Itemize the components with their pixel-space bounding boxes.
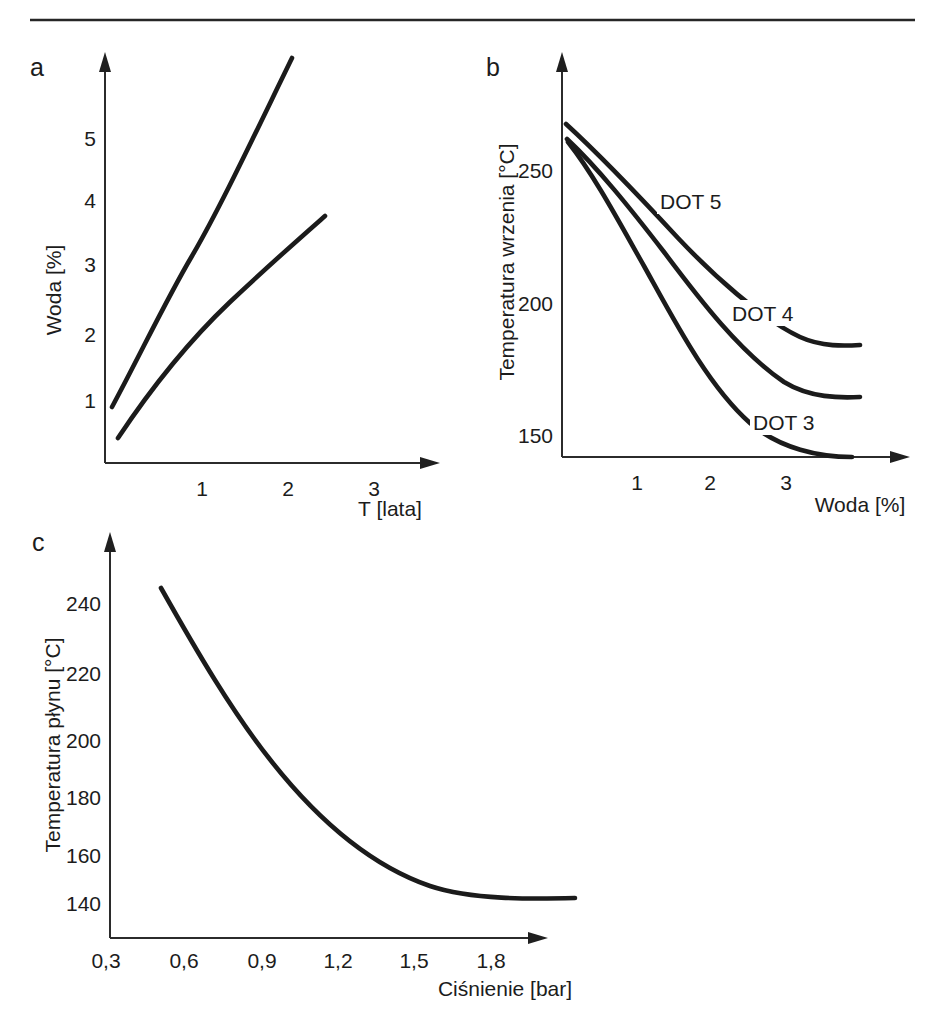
panel-a-ytick-2: 2 — [84, 323, 96, 346]
panel-b-letter: b — [486, 53, 500, 81]
panel-c-curve — [161, 588, 575, 899]
panel-c-ytick-160: 160 — [66, 844, 101, 867]
panel-c-x-axis-arrow — [528, 932, 548, 944]
panel-b-y-axis-arrow — [556, 52, 568, 72]
panel-a-ytick-4: 4 — [84, 189, 96, 212]
panel-b-ytick-150: 150 — [518, 424, 553, 447]
panel-b-ytick-200: 200 — [518, 292, 553, 315]
panel-c-y-axis-arrow — [104, 532, 116, 552]
panel-b-series-label-dot3: DOT 3 — [753, 411, 814, 434]
panel-b-series-label-dot4: DOT 4 — [732, 302, 794, 325]
figure-container: a 5 4 3 2 1 1 2 3 Woda [%] T [lata] — [0, 0, 937, 1032]
figure-canvas: a 5 4 3 2 1 1 2 3 Woda [%] T [lata] — [0, 0, 937, 1032]
panel-a: a 5 4 3 2 1 1 2 3 Woda [%] T [lata] — [30, 52, 440, 520]
panel-a-x-axis-arrow — [420, 457, 440, 469]
panel-a-y-axis-arrow — [99, 52, 111, 72]
panel-a-ytick-5: 5 — [84, 127, 96, 150]
panel-c-xtick-09: 0,9 — [247, 949, 276, 972]
panel-c-xtick-03: 0,3 — [91, 949, 120, 972]
panel-c-xtick-15: 1,5 — [399, 949, 428, 972]
panel-a-x-axis-title: T [lata] — [358, 497, 422, 520]
panel-c-ytick-240: 240 — [66, 592, 101, 615]
panel-c-ytick-220: 220 — [66, 662, 101, 685]
panel-c-letter: c — [32, 528, 45, 556]
panel-c-xtick-18: 1,8 — [476, 949, 505, 972]
panel-b-x-axis-title: Woda [%] — [815, 493, 906, 516]
panel-c-x-axis-title: Ciśnienie [bar] — [438, 977, 572, 1000]
panel-c-ytick-140: 140 — [66, 892, 101, 915]
panel-a-ytick-3: 3 — [84, 253, 96, 276]
panel-c-y-axis-title: Temperatura płynu [°C] — [41, 638, 64, 853]
panel-b: b 250 200 150 1 2 3 Temperatura wrzenia … — [486, 52, 910, 516]
panel-b-xtick-1: 1 — [631, 471, 643, 494]
panel-b-x-axis-arrow — [890, 451, 910, 463]
panel-b-ytick-250: 250 — [518, 159, 553, 182]
panel-a-xtick-1: 1 — [196, 477, 208, 500]
panel-b-y-axis-title: Temperatura wrzenia [°C] — [495, 143, 518, 380]
panel-c-xtick-12: 1,2 — [323, 949, 352, 972]
panel-a-curve-upper — [112, 58, 292, 407]
panel-b-curve-dot4 — [567, 139, 860, 397]
panel-b-series-label-dot5: DOT 5 — [660, 190, 721, 213]
panel-c: c 240 220 200 180 160 140 0,3 0,6 0,9 1,… — [32, 528, 575, 1000]
panel-a-letter: a — [30, 53, 44, 81]
panel-a-ytick-1: 1 — [84, 389, 96, 412]
panel-b-xtick-3: 3 — [780, 471, 792, 494]
panel-a-y-axis-title: Woda [%] — [42, 245, 65, 336]
panel-a-xtick-2: 2 — [282, 477, 294, 500]
panel-a-curve-lower — [118, 216, 325, 438]
panel-c-ytick-200: 200 — [66, 729, 101, 752]
panel-b-xtick-2: 2 — [704, 471, 716, 494]
panel-c-ytick-180: 180 — [66, 786, 101, 809]
panel-c-xtick-06: 0,6 — [169, 949, 198, 972]
